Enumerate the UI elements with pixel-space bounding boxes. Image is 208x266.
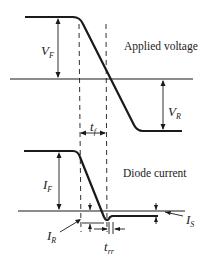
vr-label-sub: R (176, 112, 181, 121)
ir-label: IR (47, 229, 56, 245)
dashed-marker-right (106, 24, 107, 232)
tf-label-sub: f (94, 127, 96, 136)
tf-label: tf (90, 120, 96, 136)
vr-label-main: V (168, 104, 176, 119)
is-label-sub: S (190, 220, 194, 229)
if-label-sub: F (47, 185, 52, 194)
trr-label-sub: rr (108, 247, 114, 256)
applied-voltage-caption: Applied voltage (124, 41, 198, 53)
dashed-marker-left (79, 24, 81, 232)
trr-label: trr (104, 240, 114, 256)
if-label: IF (43, 178, 52, 194)
vr-label: VR (168, 105, 181, 121)
diode-switching-diagram: VF Applied voltage VR tf IF Diode curren… (0, 0, 208, 266)
ir-label-sub: R (51, 236, 56, 245)
diode-current-caption: Diode current (123, 168, 187, 180)
vf-label: VF (41, 44, 54, 60)
applied-voltage-waveform (25, 17, 182, 131)
vf-label-main: V (41, 43, 49, 58)
is-label: IS (186, 213, 194, 229)
vf-label-sub: F (49, 51, 54, 60)
